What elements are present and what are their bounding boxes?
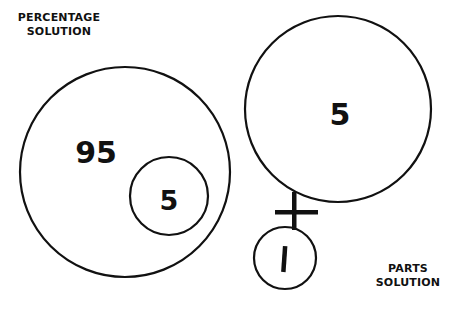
percentage-diagram: 95 5 — [20, 67, 230, 277]
parts-diagram: 5 1 — [245, 16, 431, 289]
solution-diagram: 95 5 5 1 — [0, 0, 452, 309]
inner-value: 5 — [160, 185, 179, 216]
top-value: 5 — [330, 97, 351, 132]
outer-value: 95 — [75, 135, 117, 170]
bottom-value-glyph — [281, 246, 287, 272]
